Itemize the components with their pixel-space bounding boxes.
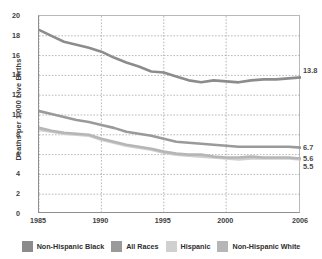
y-tick-14: 14 <box>0 70 20 79</box>
series-line-non-hispanic-black <box>39 30 301 82</box>
y-tick-6: 6 <box>0 149 20 158</box>
y-tick-4: 4 <box>0 169 20 178</box>
x-tick-1995: 1995 <box>141 216 185 225</box>
legend-item[interactable]: Hispanic <box>166 241 211 252</box>
legend-item[interactable]: All Races <box>111 241 158 252</box>
legend-label: Non-Hispanic White <box>232 242 300 251</box>
y-tick-12: 12 <box>0 90 20 99</box>
x-tick-2000: 2000 <box>203 216 247 225</box>
plot-svg <box>39 16 301 214</box>
end-label-all-races: 6.7 <box>303 142 313 151</box>
y-tick-2: 2 <box>0 189 20 198</box>
legend-swatch-icon <box>22 241 33 252</box>
chart-legend: Non-Hispanic BlackAll RacesHispanicNon-H… <box>0 236 322 256</box>
end-label-hispanic: 5.5 <box>303 161 313 170</box>
y-tick-20: 20 <box>0 11 20 20</box>
x-tick-2006: 2006 <box>278 216 322 225</box>
y-tick-8: 8 <box>0 129 20 138</box>
legend-item[interactable]: Non-Hispanic Black <box>22 241 105 252</box>
x-tick-1990: 1990 <box>78 216 122 225</box>
legend-swatch-icon <box>217 241 228 252</box>
y-tick-10: 10 <box>0 110 20 119</box>
legend-swatch-icon <box>111 241 122 252</box>
legend-label: Non-Hispanic Black <box>37 242 105 251</box>
series-line-all-races <box>39 111 301 148</box>
y-tick-16: 16 <box>0 50 20 59</box>
end-label-non-hispanic-white: 5.6 <box>303 153 313 162</box>
infant-mortality-line-chart: Deaths per 1,000 Live Births 02468101214… <box>0 0 322 259</box>
legend-item[interactable]: Non-Hispanic White <box>217 241 300 252</box>
x-tick-1985: 1985 <box>16 216 60 225</box>
legend-label: All Races <box>126 242 158 251</box>
plot-area <box>38 15 300 213</box>
end-label-non-hispanic-black: 13.8 <box>303 66 317 75</box>
legend-swatch-icon <box>166 241 177 252</box>
y-tick-18: 18 <box>0 30 20 39</box>
legend-label: Hispanic <box>181 242 211 251</box>
